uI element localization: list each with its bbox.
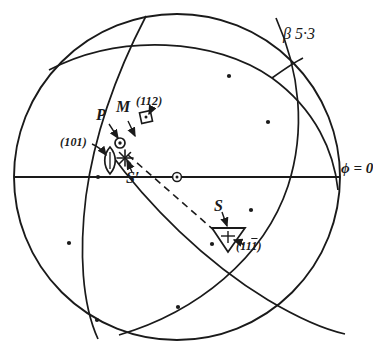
leader-pole-p [109, 124, 118, 138]
face-101-label: (101) [60, 136, 87, 148]
beta-angle-label: β 5·3 [283, 26, 315, 42]
pole-m-label: M [116, 99, 130, 115]
phi-zero-label: ϕ = 0 [341, 161, 373, 176]
center-origin-marker [173, 173, 182, 182]
face-11bar1-label: (111) [236, 240, 262, 252]
pole-s-label: S [214, 198, 223, 214]
face-11bar1-bar-digit: 1 [251, 239, 257, 253]
pole-p-marker [115, 138, 125, 148]
face-112-marker [139, 110, 152, 123]
stereographic-projection-figure: β 5·3 ϕ = 0 (101) P M (112) S′ S (111) [0, 0, 373, 353]
great-circle-arc-a [49, 45, 338, 190]
leader-pole-s [222, 212, 227, 226]
leader-pole-m [128, 121, 135, 136]
pole-s-prime-label: S′ [126, 170, 139, 186]
projection-canvas [0, 0, 373, 353]
face-101-marker [105, 147, 116, 174]
pole-p-label: P [96, 107, 106, 123]
pole-s-prime-marker [117, 150, 133, 166]
face-112-label: (112) [136, 95, 162, 107]
